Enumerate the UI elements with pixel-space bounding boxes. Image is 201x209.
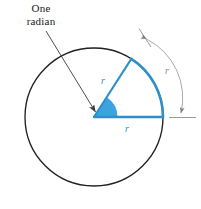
callout-arrow	[46, 31, 96, 112]
figure-canvas: r r r	[0, 0, 201, 209]
callout-line-2: radian	[14, 15, 68, 28]
radian-definition-figure: r r r One radian	[0, 0, 201, 209]
arc-measure-tick-top	[139, 29, 151, 48]
upper-radius-label: r	[101, 75, 105, 86]
intercepted-arc	[131, 59, 163, 117]
arc-length-measure	[147, 39, 183, 113]
lower-radius-label: r	[125, 123, 129, 134]
callout-line-1: One	[14, 2, 68, 15]
arc-length-label: r	[165, 65, 169, 76]
one-radian-callout: One radian	[14, 2, 68, 27]
